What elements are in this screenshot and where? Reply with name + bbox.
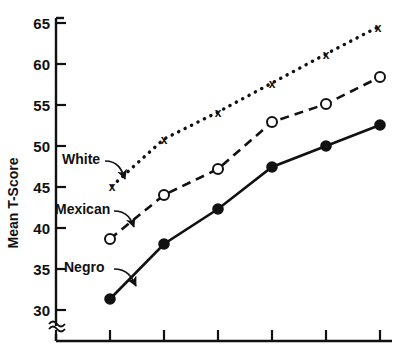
series-negro-point (213, 204, 223, 214)
y-tick-label-group: 65 60 55 50 45 40 35 30 (33, 15, 50, 319)
annotation-white-label: White (62, 151, 100, 167)
chart-figure: 65 60 55 50 45 40 35 30 Mean T-Score (0, 0, 394, 345)
annotation-mexican: Mexican (55, 201, 134, 227)
series-negro-point (105, 294, 115, 304)
series-white: x x x x x x (109, 21, 382, 194)
y-axis-title: Mean T-Score (5, 157, 21, 248)
series-negro (105, 120, 385, 304)
series-mexican-point (321, 99, 331, 109)
series-mexican-point (159, 190, 169, 200)
y-tick-label-60: 60 (33, 56, 50, 73)
series-mexican (105, 72, 385, 244)
y-tick-label-35: 35 (33, 261, 50, 278)
series-negro-point (267, 162, 277, 172)
series-white-point: x (269, 77, 276, 91)
x-tick-group (56, 330, 380, 341)
annotation-negro-label: Negro (64, 259, 104, 275)
series-negro-point (321, 141, 331, 151)
series-white-marker-group: x x x x x x (109, 21, 382, 194)
line-chart-svg: 65 60 55 50 45 40 35 30 Mean T-Score (0, 0, 394, 345)
series-white-point: x (109, 180, 116, 194)
series-white-point: x (323, 48, 330, 62)
series-white-point: x (161, 133, 168, 147)
y-tick-label-65: 65 (33, 15, 50, 32)
series-negro-point (159, 239, 169, 249)
series-white-line (112, 27, 378, 186)
series-mexican-point (375, 72, 385, 82)
annotation-mexican-arrow (114, 211, 134, 227)
series-mexican-point (267, 117, 277, 127)
series-mexican-point (105, 234, 115, 244)
axis-group (56, 18, 392, 341)
series-mexican-point (213, 164, 223, 174)
series-mexican-line (110, 77, 380, 239)
annotation-white: White (62, 151, 125, 179)
y-tick-label-40: 40 (33, 220, 50, 237)
y-tick-label-55: 55 (33, 97, 50, 114)
y-tick-label-45: 45 (33, 179, 50, 196)
series-negro-point (375, 120, 385, 130)
y-tick-label-30: 30 (33, 302, 50, 319)
series-white-point: x (375, 21, 382, 35)
series-white-point: x (215, 106, 222, 120)
y-tick-label-50: 50 (33, 138, 50, 155)
annotation-mexican-label: Mexican (55, 201, 110, 217)
